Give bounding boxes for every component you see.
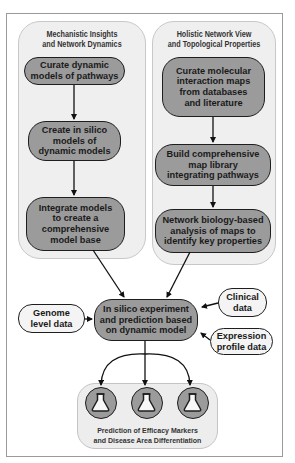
build-map-library-node: Build comprehensive map library integrat… — [155, 144, 271, 186]
flask-icon — [85, 387, 117, 419]
curate-molecular-maps-node: Curate molecular interaction maps from d… — [162, 57, 265, 117]
holistic-network-title: Holistic Network View and Topological Pr… — [160, 30, 267, 50]
clinical-data-input: Clinical data — [218, 288, 267, 317]
create-in-silico-models-node: Create in silico models of dynamic model… — [28, 121, 121, 161]
genome-level-data-input: Genome level data — [18, 304, 85, 333]
prediction-outcome-label: Prediction of Efficacy Markers and Disea… — [85, 426, 210, 445]
in-silico-experiment-node: In silico experiment and prediction base… — [94, 299, 198, 341]
flask-icon — [131, 387, 163, 419]
mechanistic-insights-title: Mechanistic Insights and Network Dynamic… — [27, 30, 138, 50]
network-biology-analysis-node: Network biology-based analysis of maps t… — [155, 209, 271, 253]
curate-dynamic-models-node: Curate dynamic models of pathways — [24, 57, 125, 85]
expression-profile-data-input: Expression profile data — [210, 328, 273, 355]
integrate-models-node: Integrate models to create a comprehensi… — [26, 197, 125, 251]
flask-icon — [177, 387, 209, 419]
